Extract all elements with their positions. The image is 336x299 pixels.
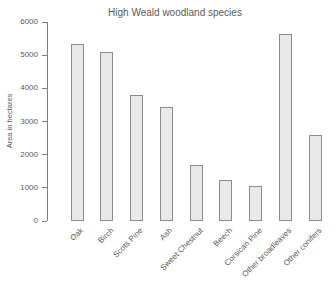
x-tick-label: Oak (69, 226, 86, 243)
bar-other-broadleaves (279, 34, 292, 221)
y-tick-mark (42, 55, 47, 56)
y-tick-label: 0 (2, 217, 38, 225)
bar-ash (160, 107, 173, 221)
x-tick-label: Scots Pine (111, 226, 144, 259)
y-tick-label: 5000 (2, 51, 38, 59)
bar-corsican-pine (249, 186, 262, 221)
y-tick-mark (42, 88, 47, 89)
y-tick-label: 3000 (2, 118, 38, 126)
y-tick-mark (42, 221, 47, 222)
y-tick-mark (42, 154, 47, 155)
x-tick-label: Ash (158, 226, 174, 242)
y-tick-label: 1000 (2, 184, 38, 192)
bar-oak (71, 44, 84, 221)
bar-beech (219, 180, 232, 221)
x-tick-label: Beech (212, 226, 234, 248)
y-tick-mark (42, 187, 47, 188)
y-tick-label: 2000 (2, 151, 38, 159)
bar-chart-figure: High Weald woodland species Area in hect… (0, 0, 336, 299)
bar-birch (100, 52, 113, 221)
plot-area: 0100020003000400050006000 OakBirchScots … (47, 22, 332, 221)
bar-other-conifers (309, 135, 322, 221)
y-tick-label: 4000 (2, 84, 38, 92)
y-tick-mark (42, 22, 47, 23)
chart-title: High Weald woodland species (35, 7, 315, 18)
bar-scots-pine (130, 95, 143, 221)
bar-sweet-chestnut (190, 165, 203, 221)
y-tick-label: 6000 (2, 18, 38, 26)
x-tick-label: Birch (96, 226, 115, 245)
y-tick-mark (42, 121, 47, 122)
